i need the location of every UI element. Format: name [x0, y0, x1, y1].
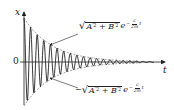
upper-annotation-arrow	[50, 34, 78, 45]
x-axis-label: t	[163, 66, 167, 75]
upper-envelope-formula: √ A′2 + B′2 e − c2m t	[79, 22, 141, 32]
lower-annotation-arrow	[50, 78, 78, 88]
y-axis-label: x	[15, 8, 20, 17]
lower-envelope-formula: − √ A′2 + B′2 e − c2m t	[75, 86, 144, 96]
origin-label: 0	[13, 57, 19, 66]
